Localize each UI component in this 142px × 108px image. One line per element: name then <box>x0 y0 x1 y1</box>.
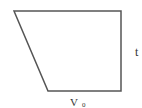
right-side-label: t <box>135 45 139 59</box>
bottom-side-subscript: 0 <box>82 101 86 108</box>
trapezoid-diagram: t V 0 <box>0 0 142 108</box>
bottom-side-label: V <box>70 96 78 108</box>
trapezoid-shape <box>14 11 121 91</box>
